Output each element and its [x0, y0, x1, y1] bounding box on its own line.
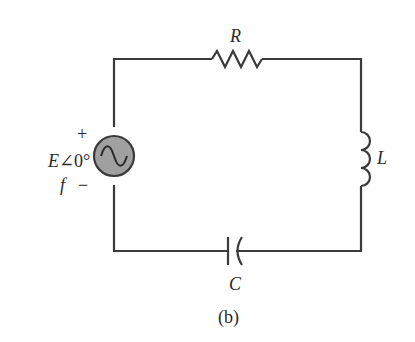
source-label: E∠0°	[47, 151, 90, 171]
figure-caption: (b)	[218, 307, 239, 328]
minus-sign-2: −	[78, 175, 88, 195]
resistor	[212, 51, 262, 67]
resistor-label: R	[229, 26, 241, 46]
wires	[114, 59, 361, 251]
capacitor-label: C	[229, 274, 242, 294]
inductor	[361, 132, 370, 186]
frequency-label: f	[60, 175, 68, 195]
inductor-label: L	[376, 148, 387, 168]
circuit-diagram: R L C (b) + E∠0° f −	[0, 0, 415, 342]
ac-source	[94, 136, 134, 176]
plus-sign: +	[77, 124, 87, 144]
